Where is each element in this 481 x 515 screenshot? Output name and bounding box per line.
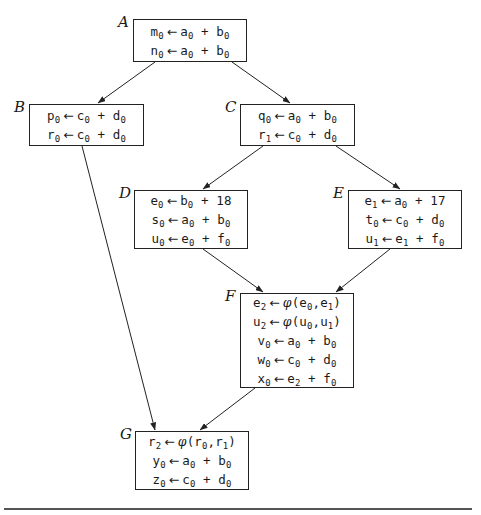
statement: r0←c0 + d0 (47, 125, 126, 144)
ssa-variable: z0 (153, 472, 166, 487)
block-label-b: B (14, 98, 25, 116)
basic-block-b: p0←c0 + d0r0←c0 + d0 (29, 104, 144, 146)
ssa-variable: e0 (150, 193, 163, 208)
assign-arrow-icon: ← (274, 333, 285, 348)
basic-block-d: e0←b0 + 18s0←a0 + b0u0←e0 + f0 (134, 190, 248, 249)
ssa-variable: r2 (148, 434, 161, 449)
block-label-g: G (120, 425, 132, 443)
statement: t0←c0 + d0 (366, 210, 445, 229)
ssa-variable: c0 (287, 352, 300, 367)
ssa-variable: e0 (299, 295, 312, 310)
ssa-variable: a0 (287, 333, 300, 348)
block-label-d: D (119, 184, 131, 202)
ssa-variable: u1 (320, 314, 333, 329)
ssa-variable: s0 (152, 212, 165, 227)
ssa-variable: e1 (364, 193, 377, 208)
assign-arrow-icon: ← (168, 212, 179, 227)
statement: m0←a0 + b0 (151, 22, 230, 41)
statement: e2←φ(e0,e1) (253, 293, 341, 312)
edge-e-to-f (336, 249, 390, 292)
statement: x0←e2 + f0 (258, 369, 337, 388)
assign-arrow-icon: ← (167, 193, 178, 208)
statement: v0←a0 + b0 (258, 331, 337, 350)
block-label-e: E (333, 184, 344, 202)
ssa-variable: a0 (180, 24, 193, 39)
ssa-variable: r0 (47, 127, 60, 142)
ssa-variable: c0 (395, 212, 408, 227)
ssa-variable: t0 (366, 212, 379, 227)
statement: z0←c0 + d0 (153, 470, 232, 489)
ssa-variable: d0 (431, 212, 444, 227)
basic-block-f: e2←φ(e0,e1)u2←φ(u0,u1)v0←a0 + b0w0←c0 + … (240, 293, 354, 388)
edge-d-to-f (203, 249, 263, 292)
statement: s0←a0 + b0 (152, 210, 231, 229)
statement: e1←a0 + 17 (364, 191, 445, 210)
ssa-variable: w0 (258, 352, 271, 367)
assign-arrow-icon: ← (274, 371, 285, 386)
ssa-variable: v0 (258, 333, 271, 348)
ssa-variable: a0 (394, 193, 407, 208)
statement: r2←φ(r0,r1) (148, 432, 236, 451)
edge-c-to-e (336, 146, 400, 189)
block-label-a: A (118, 13, 129, 31)
bottom-rule (4, 508, 472, 510)
ssa-variable: e2 (287, 371, 300, 386)
ssa-variable: d0 (218, 472, 231, 487)
ssa-variable: x0 (258, 371, 271, 386)
ssa-variable: b0 (324, 108, 337, 123)
edge-a-to-b (98, 62, 155, 103)
ssa-variable: a0 (288, 108, 301, 123)
ssa-variable: n0 (151, 43, 164, 58)
phi-function: φ (283, 314, 292, 329)
ssa-variable: a0 (180, 43, 193, 58)
assign-arrow-icon: ← (269, 295, 280, 310)
ssa-variable: r1 (258, 127, 271, 142)
statement: r1←c0 + d0 (258, 125, 337, 144)
statement: u2←φ(u0,u1) (253, 312, 341, 331)
statement: n0←a0 + b0 (151, 41, 230, 60)
statement: p0←c0 + d0 (47, 106, 126, 125)
ssa-variable: y0 (153, 453, 166, 468)
phi-function: φ (178, 434, 187, 449)
ssa-variable: b0 (323, 333, 336, 348)
ssa-variable: c0 (288, 127, 301, 142)
statement: u0←e0 + f0 (152, 229, 231, 248)
assign-arrow-icon: ← (169, 453, 180, 468)
assign-arrow-icon: ← (164, 434, 175, 449)
ssa-variable: u1 (366, 231, 379, 246)
ssa-variable: d0 (323, 352, 336, 367)
assign-arrow-icon: ← (274, 108, 285, 123)
ssa-variable: f0 (217, 231, 230, 246)
ssa-variable: f0 (323, 371, 336, 386)
basic-block-e: e1←a0 + 17t0←c0 + d0u1←e1 + f0 (348, 190, 462, 249)
basic-block-g: r2←φ(r0,r1)y0←a0 + b0z0←c0 + d0 (135, 431, 249, 490)
ssa-variable: a0 (181, 212, 194, 227)
ssa-variable: b0 (180, 193, 193, 208)
assign-arrow-icon: ← (167, 43, 178, 58)
assign-arrow-icon: ← (274, 127, 285, 142)
ssa-variable: b0 (217, 212, 230, 227)
ssa-variable: e2 (253, 295, 266, 310)
assign-arrow-icon: ← (382, 212, 393, 227)
cfg-diagram: Am0←a0 + b0n0←a0 + b0Bp0←c0 + d0r0←c0 + … (0, 0, 481, 515)
ssa-variable: b0 (216, 43, 229, 58)
statement: w0←c0 + d0 (258, 350, 337, 369)
ssa-variable: c0 (77, 127, 90, 142)
edge-f-to-g (200, 388, 255, 430)
ssa-variable: c0 (182, 472, 195, 487)
assign-arrow-icon: ← (169, 472, 180, 487)
edge-a-to-c (232, 62, 290, 103)
assign-arrow-icon: ← (382, 231, 393, 246)
statement: q0←a0 + b0 (258, 106, 337, 125)
ssa-variable: e1 (395, 231, 408, 246)
ssa-variable: u2 (253, 314, 266, 329)
assign-arrow-icon: ← (63, 108, 74, 123)
ssa-variable: d0 (113, 127, 126, 142)
ssa-variable: d0 (324, 127, 337, 142)
ssa-variable: f0 (431, 231, 444, 246)
ssa-variable: e1 (320, 295, 333, 310)
statement: y0←a0 + b0 (153, 451, 232, 470)
ssa-variable: r0 (194, 434, 207, 449)
ssa-variable: q0 (258, 108, 271, 123)
basic-block-c: q0←a0 + b0r1←c0 + d0 (240, 104, 355, 146)
